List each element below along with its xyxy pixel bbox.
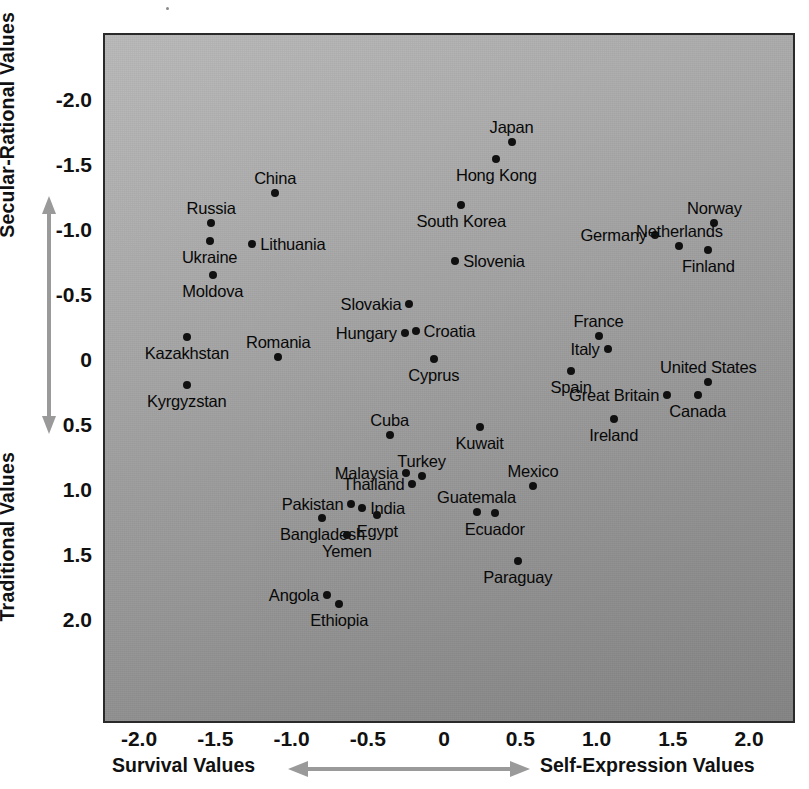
data-point-label: South Korea <box>416 212 506 229</box>
y-tick-label: -1.5 <box>0 153 92 177</box>
data-point <box>335 600 343 608</box>
data-point <box>358 504 366 512</box>
data-point-label: Hong Kong <box>456 167 537 184</box>
data-point <box>183 381 191 389</box>
data-point <box>451 257 459 265</box>
data-point-label: Egypt <box>357 523 398 540</box>
data-point-label: Ireland <box>589 427 638 444</box>
x-axis-title-right: Self-Expression Values <box>540 754 755 777</box>
data-point <box>274 353 282 361</box>
data-point <box>405 300 413 308</box>
data-point-label: China <box>254 170 296 187</box>
data-point <box>457 201 465 209</box>
x-tick-label: -0.5 <box>350 727 386 751</box>
data-point-label: Great Britain <box>569 386 659 403</box>
data-point-label: Ukraine <box>182 249 237 266</box>
x-tick-label: -1.5 <box>197 727 233 751</box>
data-point-label: Norway <box>687 200 742 217</box>
data-point-label: Japan <box>490 119 534 136</box>
data-point-label: Netherlands <box>636 223 723 240</box>
x-axis-double-arrow-icon <box>288 760 530 778</box>
data-point <box>206 237 214 245</box>
data-point-label: Croatia <box>424 323 476 340</box>
x-tick-label: 1.0 <box>582 727 611 751</box>
data-point <box>248 240 256 248</box>
data-point <box>183 333 191 341</box>
data-point-label: Moldova <box>182 283 243 300</box>
y-tick-label: 0 <box>0 348 92 372</box>
x-axis-title-left: Survival Values <box>112 754 255 777</box>
data-point <box>508 138 516 146</box>
data-point <box>675 242 683 250</box>
data-point <box>318 514 326 522</box>
x-tick-label: 1.5 <box>658 727 687 751</box>
chart-canvas: Secular-Rational Values Traditional Valu… <box>0 0 809 789</box>
data-point-label: Cyprus <box>408 367 459 384</box>
data-point-label: Lithuania <box>260 235 325 252</box>
data-point <box>401 329 409 337</box>
data-point-label: Kyrgyzstan <box>147 393 227 410</box>
data-point <box>347 500 355 508</box>
x-tick-label: 0.5 <box>506 727 535 751</box>
data-point <box>567 367 575 375</box>
data-point-label: Yemen <box>322 543 372 560</box>
data-point-label: Italy <box>570 341 599 358</box>
data-point-label: Finland <box>682 258 735 275</box>
data-point-label: Mexico <box>507 462 558 479</box>
data-point <box>408 480 416 488</box>
data-point-label: Turkey <box>397 453 446 470</box>
data-point-label: Ecuador <box>465 521 525 538</box>
data-point <box>529 482 537 490</box>
data-point <box>663 391 671 399</box>
data-point <box>610 415 618 423</box>
data-point <box>271 189 279 197</box>
x-tick-label: -1.0 <box>273 727 309 751</box>
data-point <box>343 531 351 539</box>
data-point <box>430 355 438 363</box>
data-point-label: France <box>573 313 623 330</box>
y-axis-title-top: Secular-Rational Values <box>0 12 19 238</box>
data-point-label: Ethiopia <box>310 612 368 629</box>
data-point <box>491 509 499 517</box>
y-tick-label: -1.0 <box>0 218 92 242</box>
data-point-label: Hungary <box>336 325 397 342</box>
data-point <box>704 246 712 254</box>
x-tick-label: -2.0 <box>121 727 157 751</box>
data-point-label: Pakistan <box>282 495 344 512</box>
data-point-label: Cuba <box>370 412 409 429</box>
x-tick-label: 2.0 <box>734 727 763 751</box>
page-speck <box>166 7 169 10</box>
data-point-label: United States <box>660 358 756 375</box>
data-point <box>604 345 612 353</box>
data-point <box>373 511 381 519</box>
scatter-plot-area: JapanHong KongChinaSouth KoreaNorwayRuss… <box>103 33 795 723</box>
data-point <box>209 271 217 279</box>
data-point <box>704 378 712 386</box>
data-point <box>386 431 394 439</box>
data-point-label: Slovenia <box>463 252 525 269</box>
data-point-label: Canada <box>669 402 726 419</box>
y-tick-label: 1.5 <box>0 543 92 567</box>
data-point-label: Kazakhstan <box>145 345 229 362</box>
data-point <box>323 591 331 599</box>
data-point <box>694 391 702 399</box>
data-point-label: Romania <box>246 334 311 351</box>
data-point <box>476 423 484 431</box>
data-point-label: Slovakia <box>341 295 402 312</box>
data-point <box>473 508 481 516</box>
data-point <box>418 472 426 480</box>
data-point <box>492 155 500 163</box>
data-point-label: Angola <box>269 586 319 603</box>
y-tick-label: 1.0 <box>0 478 92 502</box>
data-point <box>412 327 420 335</box>
y-tick-label: -0.5 <box>0 283 92 307</box>
data-point <box>207 219 215 227</box>
y-tick-label: 2.0 <box>0 608 92 632</box>
data-point-label: Bangladesh <box>280 526 365 543</box>
data-point <box>514 557 522 565</box>
data-point-label: Russia <box>187 200 236 217</box>
y-tick-label: -2.0 <box>0 88 92 112</box>
data-point-label: Thailand <box>343 476 405 493</box>
data-point-label: Guatemala <box>437 488 516 505</box>
y-tick-label: 0.5 <box>0 413 92 437</box>
